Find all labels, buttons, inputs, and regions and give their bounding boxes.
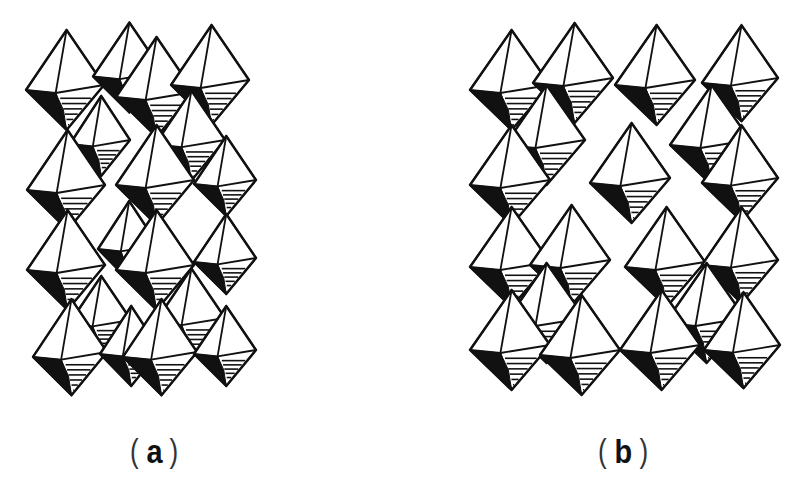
panel-b-label: ( b ) <box>598 432 648 471</box>
panel-a-label: ( a ) <box>130 432 178 471</box>
octahedron <box>194 214 256 294</box>
paren-open: ( <box>130 432 139 471</box>
paren-close: ) <box>170 432 179 471</box>
octahedron <box>590 123 670 223</box>
paren-close: ) <box>639 432 648 471</box>
panel-letter: a <box>146 432 162 471</box>
octahedron <box>615 25 695 125</box>
paren-open: ( <box>598 432 607 471</box>
panel-letter: b <box>614 432 632 471</box>
panel-a-structure <box>26 23 256 396</box>
figure: ( a ) ( b ) <box>0 0 793 492</box>
panel-b-structure <box>470 23 780 395</box>
octahedra-canvas <box>0 0 793 492</box>
